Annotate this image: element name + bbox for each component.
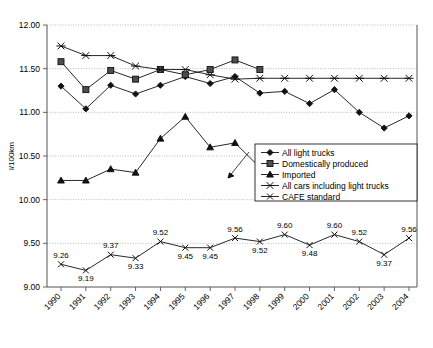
- y-axis-title: l/100km: [7, 142, 16, 170]
- legend-label: All cars including light trucks: [282, 181, 389, 191]
- marker-square: [133, 76, 139, 82]
- marker-diamond: [157, 82, 163, 88]
- marker-x: [356, 239, 362, 245]
- marker-diamond: [132, 91, 138, 97]
- x-tick-label: 2004: [390, 291, 411, 312]
- series-cafe-standard: 9.269.199.379.339.529.459.459.569.529.60…: [53, 221, 417, 283]
- marker-x: [381, 252, 387, 258]
- marker-x: [406, 235, 412, 241]
- data-label: 9.37: [103, 241, 119, 250]
- marker-diamond: [257, 90, 263, 96]
- x-tick-label: 2000: [291, 291, 312, 312]
- data-label: 9.45: [177, 252, 193, 261]
- data-label: 9.52: [153, 228, 169, 237]
- marker-square: [232, 57, 238, 63]
- legend-label: Imported: [282, 170, 316, 180]
- marker-square: [58, 59, 64, 65]
- y-tick-label: 10.50: [19, 151, 41, 161]
- marker-diamond: [282, 88, 288, 94]
- data-label: 9.56: [401, 225, 417, 234]
- marker-x: [157, 239, 163, 245]
- marker-square: [207, 67, 213, 73]
- legend-pointer-arrow: [228, 173, 234, 178]
- marker-x: [331, 232, 337, 238]
- series-path: [61, 117, 260, 181]
- legend-label: CAFE standard: [282, 192, 340, 202]
- data-label: 9.52: [351, 228, 367, 237]
- x-tick-label: 1996: [191, 291, 212, 312]
- y-tick-label: 10.00: [19, 195, 41, 205]
- marker-diamond: [406, 113, 412, 119]
- x-tick-label: 1991: [67, 291, 88, 312]
- x-tick-label: 2002: [340, 291, 361, 312]
- x-tick-label: 2003: [365, 291, 386, 312]
- data-label: 9.60: [327, 221, 343, 230]
- y-tick-label: 11.50: [19, 64, 40, 74]
- marker-square: [267, 161, 273, 167]
- marker-x: [307, 242, 313, 248]
- marker-square: [182, 72, 188, 78]
- data-label: 9.60: [277, 221, 293, 230]
- legend-label: All light trucks: [282, 148, 334, 158]
- data-label: 9.37: [376, 259, 392, 268]
- marker-square: [108, 67, 114, 73]
- y-tick-label: 12.00: [19, 20, 41, 30]
- marker-square: [257, 67, 263, 73]
- x-tick-label: 1998: [241, 291, 262, 312]
- data-label: 9.19: [78, 274, 94, 283]
- y-tick-label: 9.50: [23, 238, 40, 248]
- marker-x: [282, 232, 288, 238]
- data-label: 9.26: [53, 251, 69, 260]
- x-tick-label: 2001: [315, 291, 336, 312]
- chart-canvas: 9.009.5010.0010.5011.0011.5012.00l/100km…: [0, 0, 433, 348]
- marker-diamond: [381, 125, 387, 131]
- data-label: 9.52: [252, 246, 268, 255]
- x-tick-label: 1995: [166, 291, 187, 312]
- marker-diamond: [306, 101, 312, 107]
- x-tick-label: 1997: [216, 291, 237, 312]
- marker-triangle: [182, 113, 189, 119]
- x-tick-label: 1992: [92, 291, 113, 312]
- series-all-light-trucks: [58, 73, 412, 131]
- legend-label: Domestically produced: [282, 159, 368, 169]
- marker-square: [83, 87, 89, 93]
- data-label: 9.45: [202, 252, 218, 261]
- data-label: 9.48: [302, 249, 318, 258]
- x-tick-label: 1990: [42, 291, 63, 312]
- y-tick-label: 11.00: [19, 107, 40, 117]
- fuel-economy-line-chart: 9.009.5010.0010.5011.0011.5012.00l/100km…: [0, 0, 433, 348]
- chart-legend: All light trucksDomestically producedImp…: [255, 144, 417, 202]
- marker-triangle: [232, 140, 239, 146]
- marker-x: [58, 261, 64, 267]
- marker-triangle: [107, 166, 114, 172]
- marker-diamond: [207, 80, 213, 86]
- y-tick-label: 9.00: [23, 282, 40, 292]
- x-tick-label: 1999: [266, 291, 287, 312]
- data-label: 9.56: [227, 225, 243, 234]
- data-label: 9.33: [128, 262, 144, 271]
- x-tick-label: 1993: [117, 291, 138, 312]
- marker-x: [83, 267, 89, 273]
- x-tick-label: 1994: [141, 291, 162, 312]
